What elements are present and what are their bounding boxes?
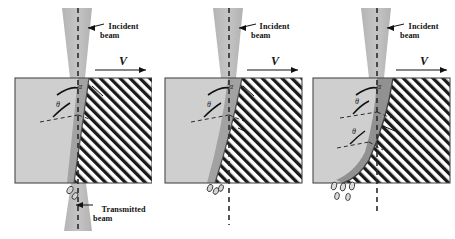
velocity-label: V bbox=[420, 54, 428, 69]
incident-beam-shape bbox=[62, 8, 92, 78]
panel-late-stage-cut: Incidentbeam V α θ θ bbox=[303, 0, 455, 239]
theta-angle-label-upper: θ bbox=[355, 97, 359, 106]
incident-beam-shape bbox=[213, 8, 243, 78]
alpha-angle-label: α bbox=[78, 82, 82, 91]
panel-early-stage-cut: Incidentbeam Transmittedbeam V α θ bbox=[0, 0, 152, 239]
theta-angle-label-lower: θ bbox=[352, 127, 356, 136]
panel-mid-stage-cut: Incidentbeam V α θ bbox=[152, 0, 304, 239]
velocity-label: V bbox=[271, 54, 279, 69]
figure-root: Incidentbeam Transmittedbeam V α θ bbox=[0, 0, 455, 239]
transmitted-beam-label: Transmittedbeam bbox=[93, 196, 146, 233]
incident-beam-label: Incidentbeam bbox=[100, 13, 139, 50]
incident-beam-label: Incidentbeam bbox=[251, 13, 290, 50]
theta-angle-label: θ bbox=[207, 100, 211, 109]
ejecta-droplets bbox=[206, 183, 224, 195]
alpha-angle-label: α bbox=[229, 82, 233, 91]
alpha-angle-label: α bbox=[377, 82, 381, 91]
velocity-label: V bbox=[119, 54, 127, 69]
theta-angle-label: θ bbox=[56, 100, 60, 109]
ejecta-droplets bbox=[330, 181, 355, 200]
incident-beam-label: Incidentbeam bbox=[400, 13, 439, 50]
incident-beam-shape bbox=[361, 8, 391, 78]
